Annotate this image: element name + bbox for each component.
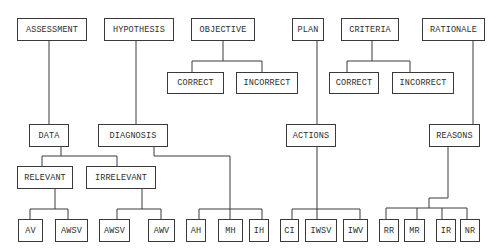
node-data: DATA [29,124,69,147]
leaf-awsv-relevant: AWSV [55,219,88,242]
node-objective-incorrect: INCORRECT [236,72,298,94]
node-objective: OBJECTIVE [191,18,255,41]
node-hypothesis: HYPOTHESIS [104,18,174,41]
node-rationale: RATIONALE [422,18,485,41]
node-actions: ACTIONS [286,124,336,147]
leaf-ir: IR [436,219,456,242]
leaf-iwsv: IWSV [305,219,337,242]
diagram-canvas: ASSESSMENT HYPOTHESIS OBJECTIVE PLAN CRI… [0,0,500,251]
leaf-awv: AWV [148,219,175,242]
leaf-iwv: IWV [343,219,368,242]
node-objective-correct: CORRECT [167,72,224,94]
node-irrelevant: IRRELEVANT [86,166,156,189]
node-criteria-incorrect: INCORRECT [392,72,454,94]
node-assessment: ASSESSMENT [17,18,87,41]
node-relevant: RELEVANT [17,166,73,189]
leaf-ih: IH [249,219,269,242]
node-reasons: REASONS [429,124,480,147]
leaf-mh: MH [218,219,243,242]
leaf-ah: AH [186,219,206,242]
node-criteria-correct: CORRECT [329,72,379,94]
leaf-awsv-irrelevant: AWSV [99,219,130,242]
node-plan: PLAN [292,18,324,41]
leaf-nr: NR [460,219,480,242]
leaf-av: AV [18,219,43,242]
leaf-mr: MR [404,219,425,242]
node-diagnosis: DIAGNOSIS [98,124,168,147]
node-criteria: CRITERIA [341,18,399,41]
leaf-ci: CI [280,219,299,242]
leaf-rr: RR [379,219,399,242]
